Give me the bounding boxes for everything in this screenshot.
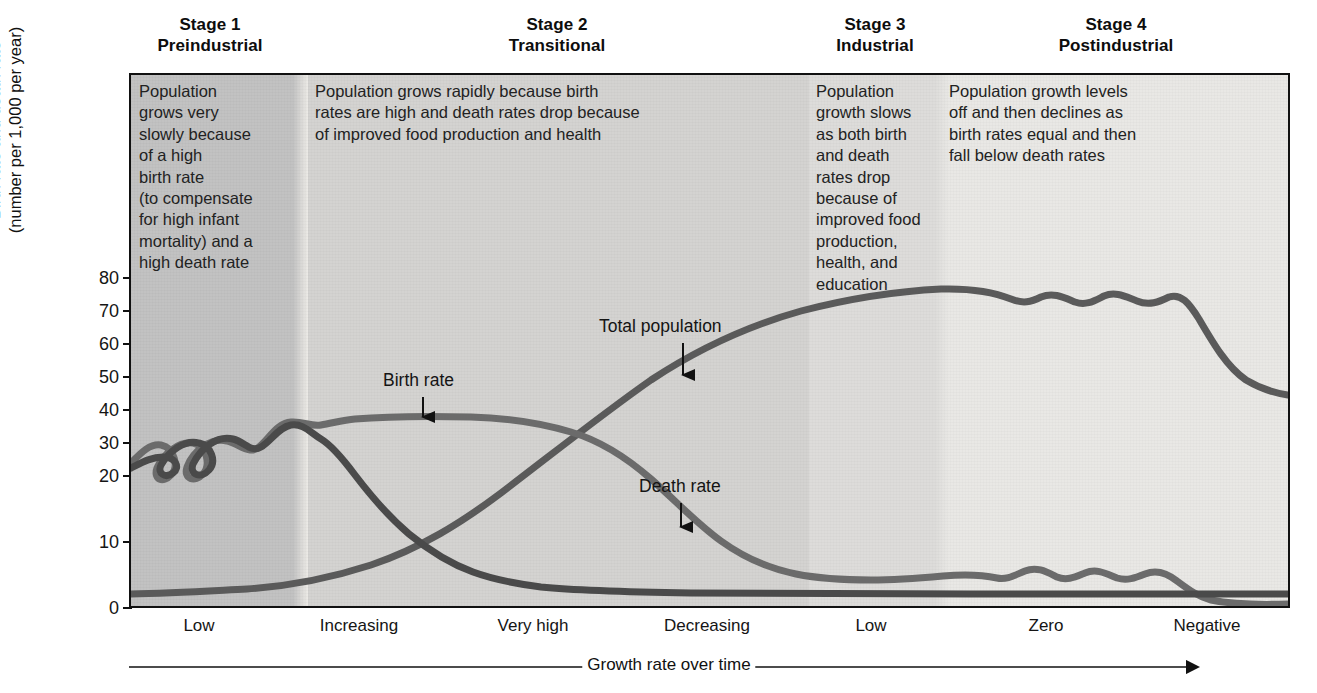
- stage-header-stage2: Stage 2 Transitional: [307, 14, 807, 56]
- stage1-name: Preindustrial: [129, 35, 291, 56]
- growth-rate-axis-arrow: Growth rate over time: [129, 656, 1209, 680]
- y-tick-label-0: 0: [85, 598, 119, 619]
- y-tick-label-30: 30: [85, 433, 119, 454]
- stage3-name: Industrial: [811, 35, 939, 56]
- stage2-name: Transitional: [307, 35, 807, 56]
- y-tick-label-70: 70: [85, 301, 119, 322]
- stage3-number: Stage 3: [844, 15, 905, 34]
- y-tick-label-10: 10: [85, 532, 119, 553]
- stage-header-stage4: Stage 4 Postindustrial: [942, 14, 1290, 56]
- annotation-arrows-svg: [131, 75, 1288, 606]
- x-tick-label-6: Negative: [1173, 616, 1240, 636]
- y-tick-label-40: 40: [85, 400, 119, 421]
- stage-header-stage3: Stage 3 Industrial: [811, 14, 939, 56]
- x-tick-label-4: Low: [855, 616, 886, 636]
- x-tick-label-0: Low: [183, 616, 214, 636]
- y-tick-label-20: 20: [85, 466, 119, 487]
- y-axis-title-line2: (number per 1,000 per year): [5, 0, 26, 300]
- y-tick-label-60: 60: [85, 334, 119, 355]
- y-tick-label-80: 80: [85, 268, 119, 289]
- growth-rate-arrow-label: Growth rate over time: [582, 655, 755, 675]
- x-tick-label-5: Zero: [1029, 616, 1064, 636]
- stage4-name: Postindustrial: [942, 35, 1290, 56]
- chart-plot-area: Population grows very slowly because of …: [129, 73, 1290, 608]
- total-population-label: Total population: [599, 316, 722, 337]
- stage-header-stage1: Stage 1 Preindustrial: [129, 14, 291, 56]
- stage4-number: Stage 4: [1085, 15, 1146, 34]
- x-tick-label-3: Decreasing: [664, 616, 750, 636]
- stage2-number: Stage 2: [526, 15, 587, 34]
- stage1-number: Stage 1: [179, 15, 240, 34]
- y-tick-label-50: 50: [85, 367, 119, 388]
- y-axis-title: Birth rate and death rate (number per 1,…: [0, 0, 26, 300]
- birth-rate-label: Birth rate: [383, 370, 454, 391]
- death-rate-label: Death rate: [639, 476, 721, 497]
- x-tick-label-2: Very high: [498, 616, 569, 636]
- x-tick-label-1: Increasing: [320, 616, 398, 636]
